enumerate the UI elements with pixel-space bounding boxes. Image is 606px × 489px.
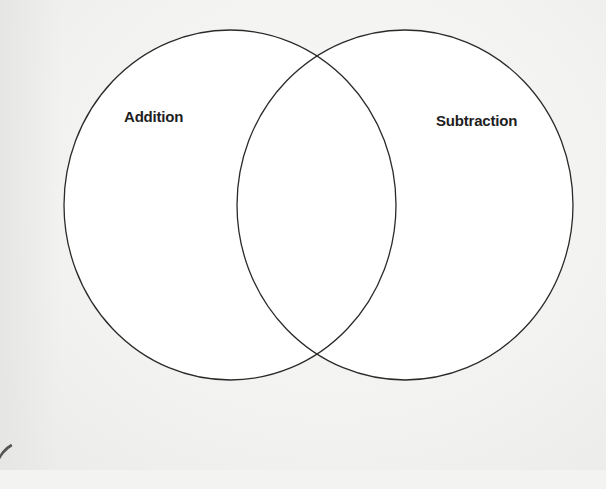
- set-label-subtraction: Subtraction: [436, 112, 517, 129]
- venn-circle-subtraction-fill: [237, 30, 573, 380]
- set-label-addition: Addition: [124, 108, 183, 125]
